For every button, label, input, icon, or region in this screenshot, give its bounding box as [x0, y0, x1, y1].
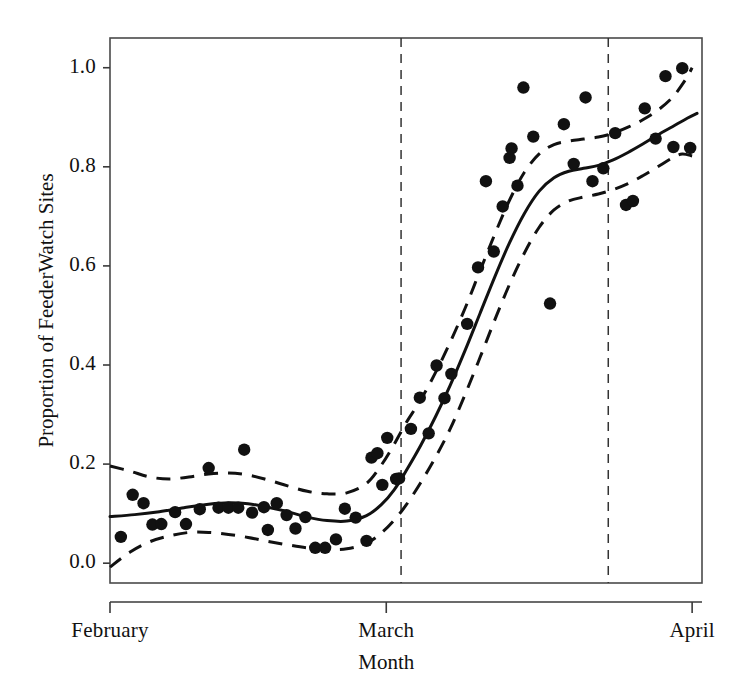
y-tick-label: 1.0: [69, 54, 96, 79]
scatter-plot-svg: [0, 0, 743, 678]
y-tick-label: 0.6: [69, 252, 96, 277]
figure-container: 0.00.20.40.60.81.0 FebruaryMarchApril Pr…: [0, 0, 743, 678]
y-axis-title: Proportion of FeederWatch Sites: [34, 173, 59, 447]
x-tick-label: April: [669, 618, 714, 643]
x-axis-title: Month: [358, 650, 414, 675]
data-points: [115, 62, 697, 554]
x-tick-label: February: [71, 618, 148, 643]
axis-ticks: [103, 68, 702, 613]
vertical-reference-lines: [401, 38, 608, 583]
y-tick-label: 0.4: [69, 351, 96, 376]
y-tick-label: 0.8: [69, 153, 96, 178]
y-tick-label: 0.2: [69, 450, 96, 475]
x-tick-label: March: [358, 618, 414, 643]
plot-frame: [110, 38, 702, 583]
y-tick-label: 0.0: [69, 549, 96, 574]
